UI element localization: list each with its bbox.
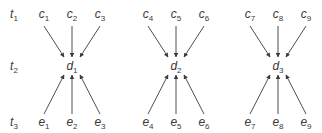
node-c7-subscript: 7	[251, 14, 256, 23]
node-c8-subscript: 8	[279, 14, 284, 23]
labels: t1t2t3d1c1c2c3e1e2e3d2c4c5c6e4e5e6d3c7c8…	[10, 7, 312, 131]
time-label-t2-subscript: 2	[13, 66, 18, 75]
node-c9-subscript: 9	[307, 14, 312, 23]
node-d1: d1	[66, 59, 78, 75]
edge-c6-to-d2	[184, 26, 204, 57]
node-c3-subscript: 3	[101, 14, 106, 23]
node-e6: e6	[198, 115, 210, 131]
edge-c4-to-d2	[148, 26, 168, 57]
node-e3-subscript: 3	[101, 122, 106, 131]
node-e5: e5	[170, 115, 182, 131]
edge-c9-to-d3	[286, 26, 306, 57]
edge-e3-to-d1	[80, 75, 100, 114]
node-d3: d3	[272, 59, 284, 75]
edge-e7-to-d3	[250, 75, 270, 114]
edge-e9-to-d3	[286, 75, 306, 114]
node-e8-subscript: 8	[279, 122, 284, 131]
node-e9: e9	[300, 115, 312, 131]
node-e8: e8	[272, 115, 284, 131]
node-e7-subscript: 7	[251, 122, 256, 131]
node-c2-subscript: 2	[73, 14, 78, 23]
edge-c3-to-d1	[80, 26, 100, 57]
node-e6-subscript: 6	[205, 122, 210, 131]
node-e9-subscript: 9	[307, 122, 312, 131]
node-d2-subscript: 2	[177, 66, 182, 75]
node-c4-subscript: 4	[149, 14, 154, 23]
edge-e1-to-d1	[44, 75, 64, 114]
node-c6: c6	[199, 7, 210, 23]
node-c4: c4	[143, 7, 154, 23]
node-c9: c9	[301, 7, 312, 23]
diagram: t1t2t3d1c1c2c3e1e2e3d2c4c5c6e4e5e6d3c7c8…	[0, 0, 322, 133]
node-e4-subscript: 4	[149, 122, 154, 131]
node-c5: c5	[171, 7, 182, 23]
edge-c7-to-d3	[250, 26, 270, 57]
node-d3-subscript: 3	[279, 66, 284, 75]
edge-e6-to-d2	[184, 75, 204, 114]
node-e1: e1	[38, 115, 50, 131]
node-e5-subscript: 5	[177, 122, 182, 131]
time-label-t3: t3	[10, 115, 18, 131]
node-c1-subscript: 1	[45, 14, 50, 23]
node-c7: c7	[245, 7, 256, 23]
edge-c1-to-d1	[44, 26, 64, 57]
node-e2: e2	[66, 115, 78, 131]
time-label-t3-subscript: 3	[13, 122, 18, 131]
edge-e4-to-d2	[148, 75, 168, 114]
node-c3: c3	[95, 7, 106, 23]
node-c2: c2	[67, 7, 78, 23]
node-e1-subscript: 1	[45, 122, 50, 131]
time-label-t1-subscript: 1	[13, 14, 18, 23]
node-e4: e4	[142, 115, 154, 131]
node-d1-subscript: 1	[73, 66, 78, 75]
time-label-t2: t2	[10, 59, 18, 75]
time-label-t1: t1	[10, 7, 18, 23]
node-e2-subscript: 2	[73, 122, 78, 131]
node-c8: c8	[273, 7, 284, 23]
node-c6-subscript: 6	[205, 14, 210, 23]
node-c1: c1	[39, 7, 50, 23]
node-e7: e7	[244, 115, 256, 131]
node-e3: e3	[94, 115, 106, 131]
node-c5-subscript: 5	[177, 14, 182, 23]
node-d2: d2	[170, 59, 182, 75]
